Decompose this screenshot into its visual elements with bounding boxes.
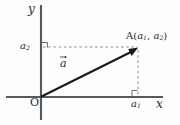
x-component-subscript: 1 xyxy=(137,102,141,109)
y-axis-label: y xyxy=(28,3,35,15)
vector-a-shaft xyxy=(42,52,133,97)
vector-a-arrowhead-icon xyxy=(128,48,138,56)
diagram-canvas xyxy=(0,0,180,125)
x-component-label: a1 xyxy=(131,99,141,110)
y-component-subscript: 2 xyxy=(26,44,30,51)
origin-label: O xyxy=(30,97,39,108)
point-a-label: A(a1, a2) xyxy=(126,31,167,42)
point-a-close-paren: ) xyxy=(163,30,167,41)
vector-a-glyph-wrap: a xyxy=(60,55,67,69)
right-angle-marker-a1-icon xyxy=(132,91,138,97)
vector-diagram-figure: y x O a2 a1 A(a1, a2) a xyxy=(0,0,180,125)
y-component-label: a2 xyxy=(20,41,30,52)
vector-a-label: a xyxy=(60,55,67,69)
vector-overarrow-icon xyxy=(60,55,67,59)
x-axis-label: x xyxy=(156,98,163,110)
